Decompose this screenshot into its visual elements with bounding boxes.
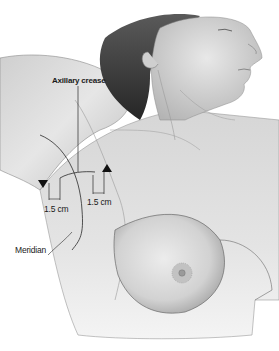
torso-drawing — [0, 0, 279, 351]
anatomy-illustration: Axillary crease 1.5 cm 1.5 cm Meridian — [0, 0, 279, 351]
axillary-crease-label: Axillary crease — [52, 76, 106, 85]
right-measurement-label: 1.5 cm — [87, 197, 111, 207]
left-measurement-label: 1.5 cm — [44, 204, 68, 214]
meridian-label: Meridian — [15, 245, 46, 255]
